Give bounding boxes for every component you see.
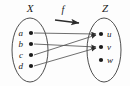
element-dot-v	[99, 45, 103, 49]
element-label-a: a	[19, 28, 24, 38]
codomain-set-label: Z	[102, 2, 109, 14]
codomain-elements-group: uvw	[99, 29, 113, 65]
codomain-set-ellipse	[87, 18, 121, 82]
mapping-arrow-a-to-u	[34, 33, 96, 34]
diagram-canvas: abcd uvw X Z f	[0, 0, 130, 86]
element-label-d: d	[19, 61, 24, 71]
element-label-b: b	[19, 39, 24, 49]
domain-set-label: X	[26, 2, 35, 14]
domain-elements-group: abcd	[19, 28, 34, 71]
function-arrow	[55, 20, 79, 23]
mapping-arrow-d-to-v	[34, 48, 96, 66]
element-dot-b	[29, 42, 33, 46]
element-dot-u	[99, 32, 103, 36]
element-label-c: c	[19, 50, 23, 60]
function-name-label: f	[62, 4, 66, 15]
function-mapping-diagram: abcd uvw X Z f	[0, 0, 130, 86]
element-dot-w	[99, 58, 103, 62]
domain-set-ellipse	[12, 18, 48, 82]
element-dot-c	[29, 53, 33, 57]
element-dot-a	[29, 31, 33, 35]
element-dot-d	[29, 64, 33, 68]
element-label-u: u	[107, 29, 112, 39]
element-label-w: w	[107, 55, 113, 65]
element-label-v: v	[107, 42, 111, 52]
